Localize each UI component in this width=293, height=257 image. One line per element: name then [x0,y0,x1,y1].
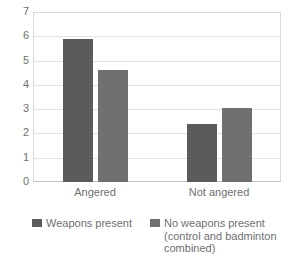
legend-label: No weapons present (control and badminto… [164,217,277,255]
y-axis-tick-label: 6 [3,30,29,41]
legend-swatch-icon [150,219,160,227]
y-axis-tick-label: 5 [3,55,29,66]
bar [63,39,93,182]
bar-chart: 01234567 AngeredNot angered Weapons pres… [0,0,293,257]
y-axis-tick-label: 4 [3,79,29,90]
y-axis-tick-label: 0 [3,176,29,187]
bar [222,108,252,182]
bar [187,124,217,182]
y-axis-tick-label: 1 [3,152,29,163]
legend-label: Weapons present [46,217,132,230]
x-axis-category-label: Not angered [159,186,279,199]
legend-entry-no-weapons-present[interactable]: No weapons present (control and badminto… [150,217,277,255]
legend-swatch-icon [32,219,42,227]
chart-legend: Weapons present No weapons present (cont… [0,214,293,257]
y-axis-tick-label: 7 [3,6,29,17]
bar [98,70,128,182]
bars-layer [33,12,281,182]
y-axis-tick-label: 2 [3,127,29,138]
x-axis-category-label: Angered [35,186,155,199]
legend-entry-weapons-present[interactable]: Weapons present [32,217,132,230]
y-axis-tick-label: 3 [3,103,29,114]
